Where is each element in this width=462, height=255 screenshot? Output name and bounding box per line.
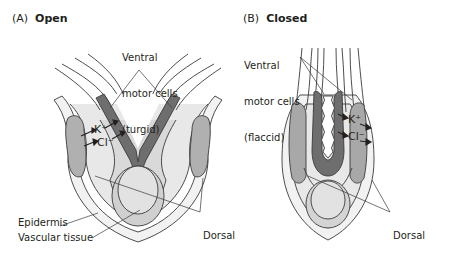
panel-a-ion-k: K⁺ — [94, 124, 107, 136]
panel-a-ventral-label: Ventral motor cells (turgid) — [122, 28, 178, 148]
panel-b-ion-cl: Cl⁻ — [348, 131, 365, 143]
panel-b-ventral-label: Ventral motor cells (flaccid) — [244, 36, 300, 156]
panel-b-ion-k: K⁺ — [348, 114, 361, 126]
panel-a-vascular-label: Vascular tissue — [18, 232, 93, 244]
panel-a-dorsal-label: Dorsal motor cells (flaccid) — [203, 206, 259, 255]
panel-a-epidermis-label: Epidermis — [18, 217, 68, 229]
panel-b-dorsal-label: Dorsal motor cells (turgid) — [393, 206, 449, 255]
panel-a-ion-cl: Cl⁻ — [97, 137, 114, 149]
